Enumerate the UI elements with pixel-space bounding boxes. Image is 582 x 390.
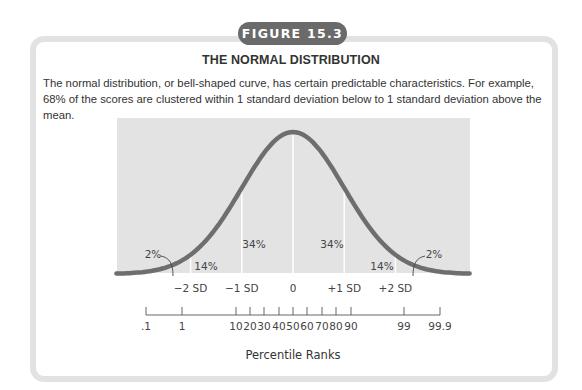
sd-axis-labels: −2 SD−1 SD0+1 SD+2 SD <box>174 282 412 294</box>
region-percent-label: 14% <box>194 260 217 272</box>
percentile-tick-label: 30 <box>257 320 270 332</box>
percentile-tick-label: 80 <box>329 320 342 332</box>
percentile-tick-label: 99 <box>397 320 410 332</box>
percentile-tick-label: 50 <box>286 320 299 332</box>
region-percent-label: 14% <box>370 260 393 272</box>
figure-number-badge: FIGURE 15.3 <box>238 22 347 45</box>
normal-distribution-chart: 2%14%34%34%14%2% −2 SD−1 SD0+1 SD+2 SD .… <box>0 0 582 390</box>
percentile-tick-label: .1 <box>141 320 151 332</box>
region-percent-label: 34% <box>242 238 265 250</box>
sd-label: −2 SD <box>174 282 208 294</box>
sd-label: +1 SD <box>327 282 361 294</box>
region-percent-label: 2% <box>145 248 162 260</box>
sd-label: −1 SD <box>225 282 259 294</box>
percentile-tick-label: 90 <box>344 320 357 332</box>
percentile-tick-label: 70 <box>315 320 328 332</box>
sd-label: +2 SD <box>379 282 413 294</box>
x-axis-title: Percentile Ranks <box>245 348 340 362</box>
percentile-tick-label: 99.9 <box>428 320 451 332</box>
percentile-axis: .111020304050607080909999.9 <box>141 307 452 332</box>
percentile-tick-label: 1 <box>179 320 186 332</box>
sd-label: 0 <box>290 282 297 294</box>
percentile-tick-label: 60 <box>300 320 313 332</box>
region-percent-label: 34% <box>320 238 343 250</box>
percentile-tick-label: 40 <box>272 320 285 332</box>
region-percent-label: 2% <box>426 248 443 260</box>
percentile-tick-label: 10 <box>229 320 242 332</box>
percentile-tick-label: 20 <box>243 320 256 332</box>
